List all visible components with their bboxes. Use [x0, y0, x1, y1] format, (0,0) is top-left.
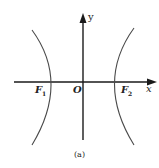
focus-left-label: F1 [34, 84, 46, 97]
focus-right-subscript: 2 [128, 90, 132, 97]
diagram-canvas: y x O F1 F2 (a) [0, 0, 159, 168]
y-axis-label: y [87, 11, 94, 22]
focus-left-subscript: 1 [42, 90, 46, 97]
focus-right-label: F2 [120, 84, 132, 97]
x-axis-label: x [146, 83, 152, 94]
y-axis-arrow-icon [80, 13, 87, 23]
hyperbola-figure: y x O F1 F2 (a) [0, 0, 159, 168]
origin-label: O [73, 84, 82, 95]
figure-caption: (a) [74, 150, 85, 159]
